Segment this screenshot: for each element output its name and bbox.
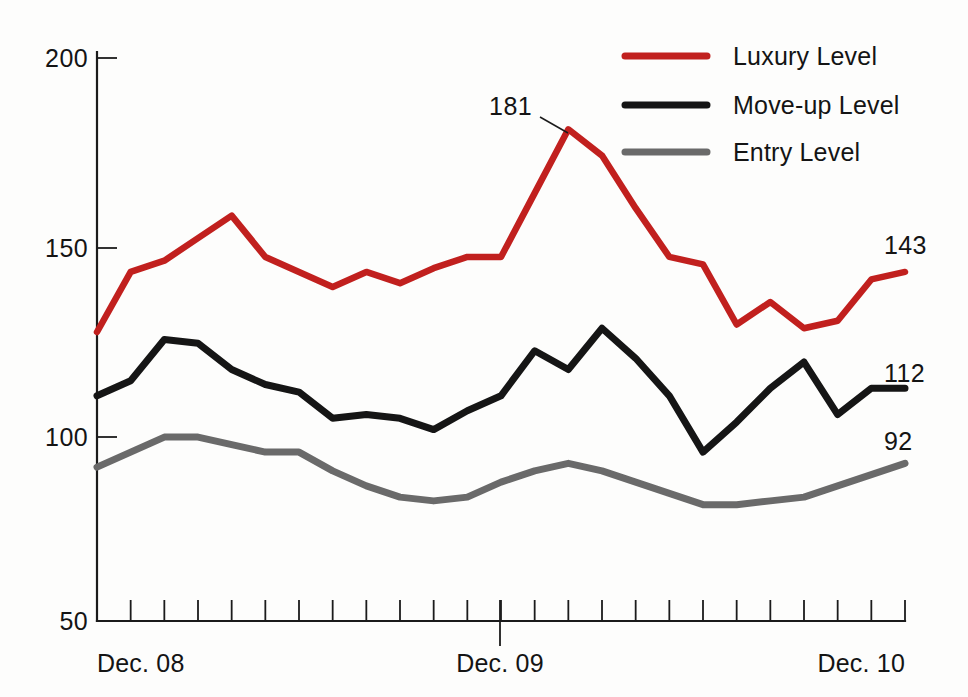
series-line-entry-level: [97, 437, 905, 505]
entry-end-value-label: 92: [884, 427, 913, 455]
peak-leader-line: [540, 117, 568, 133]
x-tick-label-dec10: Dec. 10: [817, 649, 905, 677]
luxury-end-value-label: 143: [884, 231, 927, 259]
x-tick-label-dec08: Dec. 08: [97, 649, 185, 677]
legend-label-move-up-level[interactable]: Move-up Level: [733, 91, 900, 119]
x-tick-label-dec09: Dec. 09: [456, 649, 544, 677]
y-tick-label-100: 100: [45, 423, 88, 451]
y-axis-ticks: [97, 58, 117, 437]
y-tick-label-200: 200: [45, 44, 88, 72]
x-axis-ticks: [97, 600, 905, 621]
chart-legend: Luxury Level Move-up Level Entry Level: [625, 42, 900, 166]
peak-value-label: 181: [489, 92, 532, 120]
moveup-end-value-label: 112: [884, 359, 925, 387]
series-lines: [97, 129, 905, 504]
line-chart: 200 150 100 50 Dec. 08 Dec. 09 Dec. 10 1…: [0, 0, 968, 697]
legend-label-luxury-level[interactable]: Luxury Level: [733, 42, 877, 70]
y-tick-label-150: 150: [45, 234, 88, 262]
legend-label-entry-level[interactable]: Entry Level: [733, 138, 860, 166]
chart-canvas: 200 150 100 50 Dec. 08 Dec. 09 Dec. 10 1…: [0, 0, 968, 697]
series-line-move-up-level: [97, 328, 905, 452]
y-tick-label-50: 50: [59, 607, 88, 635]
